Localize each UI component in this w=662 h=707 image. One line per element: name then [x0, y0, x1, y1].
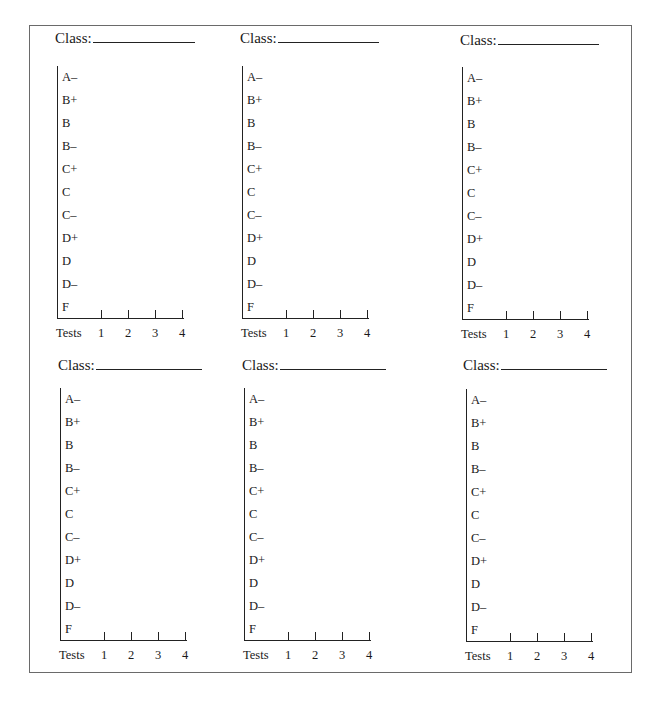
grade-label: B+	[471, 416, 486, 430]
grade-label: D+	[471, 554, 487, 568]
y-axis-line	[466, 389, 467, 641]
class-field[interactable]: Class:	[463, 357, 607, 374]
x-axis-tick-label: 2	[534, 649, 540, 663]
grade-label: D	[471, 577, 480, 591]
x-axis-tick	[510, 633, 511, 641]
grade-chart-panel-6: Class: A–B+BB–C+CC–D+DD–FTests1234	[0, 0, 662, 707]
grade-label: B	[471, 439, 479, 453]
grade-label: C+	[471, 485, 486, 499]
grade-label: C–	[471, 531, 486, 545]
x-axis-tick-label: 1	[507, 649, 513, 663]
x-axis-tick	[591, 633, 592, 641]
x-axis-tick	[537, 633, 538, 641]
grade-label: B–	[471, 462, 486, 476]
grade-label: C	[471, 508, 479, 522]
class-label: Class:	[463, 357, 500, 374]
x-axis-line	[466, 641, 593, 642]
x-axis-tick-label: 4	[588, 649, 594, 663]
x-axis-title: Tests	[465, 649, 491, 663]
class-blank-line[interactable]	[501, 368, 607, 370]
grade-label: A–	[471, 393, 486, 407]
x-axis-tick-label: 3	[561, 649, 567, 663]
grade-label: F	[471, 623, 478, 637]
grade-label: D–	[471, 600, 486, 614]
x-axis-tick	[564, 633, 565, 641]
